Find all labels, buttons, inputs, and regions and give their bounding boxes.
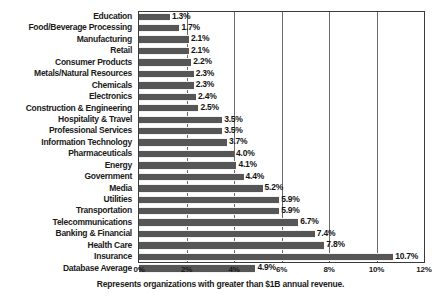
bar-value-label: 4.1% [238, 159, 257, 170]
bar-row: 10.7% [138, 251, 425, 262]
bar-value-label: 2.3% [196, 68, 215, 79]
category-label: Media [0, 183, 135, 194]
bar-value-label: 2.4% [198, 91, 217, 102]
category-label: Health Care [0, 240, 135, 251]
bar-row: 2.3% [138, 80, 425, 91]
bar [139, 81, 194, 89]
bar-row: 5.2% [138, 183, 425, 194]
category-label: Transportation [0, 205, 135, 216]
bar-row: 2.2% [138, 57, 425, 68]
category-label: Database Average [0, 263, 135, 274]
bar-value-label: 3.5% [224, 125, 243, 136]
category-label: Banking & Financial [0, 228, 135, 239]
bar [139, 13, 170, 21]
bar-row: 4.1% [138, 160, 425, 171]
bar [139, 47, 189, 55]
bar-value-label: 7.8% [326, 239, 345, 250]
bar [139, 35, 189, 43]
category-label: Construction & Engineering [0, 103, 135, 114]
bar [139, 93, 196, 101]
bar [139, 104, 198, 112]
category-label: Manufacturing [0, 34, 135, 45]
category-label: Energy [0, 160, 135, 171]
bar-row: 7.8% [138, 240, 425, 251]
x-axis-ticks: 0%2%4%6%8%10%12% [138, 265, 425, 277]
bar-chart: EducationFood/Beverage ProcessingManufac… [0, 0, 441, 298]
bar-row: 4.4% [138, 171, 425, 182]
category-label: Education [0, 11, 135, 22]
bar-row: 2.1% [138, 45, 425, 56]
category-label: Consumer Products [0, 57, 135, 68]
bar-value-label: 4.0% [236, 148, 255, 159]
bar [139, 207, 279, 215]
category-label: Professional Services [0, 125, 135, 136]
bar-value-label: 2.1% [191, 33, 210, 44]
bar-value-label: 5.2% [265, 182, 284, 193]
bar-value-label: 10.7% [395, 251, 418, 262]
bar [139, 150, 234, 158]
category-label: Insurance [0, 251, 135, 262]
bar [139, 161, 236, 169]
bar [139, 196, 279, 204]
bar-value-label: 4.4% [246, 171, 265, 182]
bar-row: 2.5% [138, 103, 425, 114]
bar-value-label: 2.3% [196, 79, 215, 90]
category-label: Telecommunications [0, 217, 135, 228]
bar-value-label: 2.5% [200, 102, 219, 113]
bar-value-label: 5.9% [281, 205, 300, 216]
x-tick-label: 8% [323, 265, 334, 274]
bar-row: 1.7% [138, 22, 425, 33]
category-label: Pharmaceuticals [0, 148, 135, 159]
bar [139, 24, 179, 32]
bar-row: 3.5% [138, 125, 425, 136]
bar-value-label: 3.5% [224, 114, 243, 125]
bar-row: 2.1% [138, 34, 425, 45]
category-label: Electronics [0, 91, 135, 102]
category-label: Information Technology [0, 137, 135, 148]
category-label: Hospitality & Travel [0, 114, 135, 125]
chart-footnote: Represents organizations with greater th… [0, 279, 441, 289]
bar [139, 241, 324, 249]
bar [139, 58, 191, 66]
bar-row: 4.0% [138, 148, 425, 159]
bar [139, 253, 393, 261]
bar [139, 218, 298, 226]
bar-row: 6.7% [138, 217, 425, 228]
category-label: Utilities [0, 194, 135, 205]
bar [139, 184, 263, 192]
bar-value-label: 7.4% [317, 228, 336, 239]
bar-value-label: 5.9% [281, 194, 300, 205]
bar-row: 3.7% [138, 137, 425, 148]
x-tick-label: 10% [369, 265, 384, 274]
category-label: Retail [0, 45, 135, 56]
bar-value-label: 2.1% [191, 45, 210, 56]
bar [139, 230, 315, 238]
category-label: Food/Beverage Processing [0, 22, 135, 33]
x-tick-label: 6% [276, 265, 287, 274]
x-tick-label: 4% [228, 265, 239, 274]
bar-row: 7.4% [138, 228, 425, 239]
category-axis-labels: EducationFood/Beverage ProcessingManufac… [0, 11, 135, 263]
bar [139, 138, 227, 146]
bar [139, 70, 194, 78]
bar-row: 5.9% [138, 194, 425, 205]
bar-row: 5.9% [138, 205, 425, 216]
category-label: Metals/Natural Resources [0, 68, 135, 79]
x-tick-label: 12% [416, 265, 431, 274]
bar-row: 2.3% [138, 68, 425, 79]
category-label: Government [0, 171, 135, 182]
bar-rows: 1.3%1.7%2.1%2.1%2.2%2.3%2.3%2.4%2.5%3.5%… [138, 11, 425, 263]
bar [139, 173, 244, 181]
bar-row: 1.3% [138, 11, 425, 22]
bar-value-label: 3.7% [229, 136, 248, 147]
bar [139, 116, 222, 124]
bar-value-label: 6.7% [300, 216, 319, 227]
bar-value-label: 1.3% [172, 11, 191, 22]
category-label: Chemicals [0, 80, 135, 91]
bar [139, 127, 222, 135]
bar-row: 3.5% [138, 114, 425, 125]
x-tick-label: 0% [133, 265, 144, 274]
bar-row: 2.4% [138, 91, 425, 102]
x-tick-label: 2% [181, 265, 192, 274]
bar-value-label: 1.7% [181, 22, 200, 33]
